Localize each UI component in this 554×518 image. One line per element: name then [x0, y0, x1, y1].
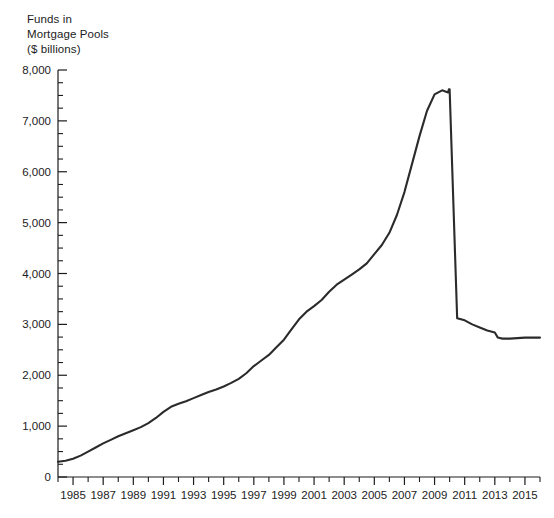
x-tick-label: 2013	[482, 489, 508, 501]
x-tick-label: 2005	[362, 489, 388, 501]
x-tick-label: 1987	[90, 489, 116, 501]
y-tick-label: 8,000	[22, 64, 51, 76]
x-tick-label: 2003	[331, 489, 357, 501]
data-line-1	[58, 89, 540, 461]
y-tick-label: 1,000	[22, 420, 51, 432]
x-tick-label: 2009	[422, 489, 448, 501]
x-tick-label: 1995	[211, 489, 237, 501]
y-tick-label: 3,000	[22, 318, 51, 330]
y-tick-label: 7,000	[22, 115, 51, 127]
x-tick-label: 2011	[452, 489, 477, 501]
x-tick-label: 1997	[241, 489, 267, 501]
x-tick-label: 2015	[512, 489, 538, 501]
x-tick-label: 1999	[271, 489, 297, 501]
y-tick-label: 0	[45, 471, 51, 483]
data-series-group	[58, 89, 540, 461]
chart-figure: Funds in Mortgage Pools ($ billions) 01,…	[0, 0, 554, 518]
y-tick-label: 2,000	[22, 369, 51, 381]
line-chart-plot: 01,0002,0003,0004,0005,0006,0007,0008,00…	[0, 0, 554, 518]
x-tick-label: 1991	[151, 489, 177, 501]
y-axis: 01,0002,0003,0004,0005,0006,0007,0008,00…	[22, 64, 67, 483]
y-tick-label: 6,000	[22, 166, 51, 178]
x-tick-label: 2001	[301, 489, 327, 501]
x-tick-label: 1993	[181, 489, 207, 501]
x-tick-label: 1989	[121, 489, 147, 501]
y-tick-label: 4,000	[22, 268, 51, 280]
x-axis: 1985198719891991199319951997199920012003…	[58, 477, 540, 501]
x-tick-label: 2007	[392, 489, 418, 501]
x-tick-label: 1985	[60, 489, 86, 501]
y-tick-label: 5,000	[22, 217, 51, 229]
